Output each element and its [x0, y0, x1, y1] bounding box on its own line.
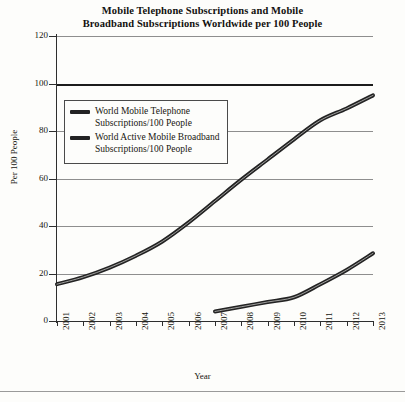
- x-tick-2009: [268, 321, 269, 326]
- x-tick-label-2012: 2012: [351, 312, 361, 330]
- legend-label-broadband: World Active Mobile Broadband Subscripti…: [95, 132, 220, 155]
- x-tick-label-2001: 2001: [61, 312, 71, 330]
- gridline-60: [57, 179, 373, 180]
- x-tick-label-2006: 2006: [193, 312, 203, 330]
- chart-container: Mobile Telephone Subscriptions and Mobil…: [0, 0, 405, 402]
- x-tick-label-2007: 2007: [219, 312, 229, 330]
- y-tick-80: [49, 131, 57, 132]
- x-tick-2002: [83, 321, 84, 326]
- y-tick-40: [49, 226, 57, 227]
- legend-label-telephone: World Mobile Telephone Subscriptions/100…: [95, 106, 192, 129]
- legend-label-telephone-line-1: World Mobile Telephone: [95, 106, 190, 116]
- x-tick-2003: [110, 321, 111, 326]
- gridline-120: [57, 36, 373, 37]
- x-tick-2010: [294, 321, 295, 326]
- plot-area: [57, 36, 373, 321]
- y-tick-60: [49, 179, 57, 180]
- x-tick-label-2003: 2003: [114, 312, 124, 330]
- footer-divider: [0, 391, 405, 392]
- x-tick-label-2011: 2011: [324, 312, 334, 330]
- gridline-100: [57, 84, 373, 86]
- legend-label-telephone-line-2: Subscriptions/100 People: [95, 118, 192, 128]
- chart-title: Mobile Telephone Subscriptions and Mobil…: [0, 4, 405, 30]
- legend-swatch-icon: [70, 136, 90, 140]
- y-axis-labels: 020406080100120: [0, 0, 48, 402]
- x-tick-2007: [215, 321, 216, 326]
- x-tick-label-2009: 2009: [272, 312, 282, 330]
- x-tick-2011: [320, 321, 321, 326]
- y-axis-title: Per 100 People: [9, 97, 19, 217]
- legend-label-broadband-line-2: Subscriptions/100 People: [95, 144, 192, 154]
- legend-item-telephone: World Mobile Telephone Subscriptions/100…: [70, 106, 220, 129]
- y-tick-label-20: 20: [2, 268, 48, 278]
- y-tick-120: [49, 36, 57, 37]
- y-tick-label-120: 120: [2, 30, 48, 40]
- y-tick-label-40: 40: [2, 220, 48, 230]
- x-tick-label-2005: 2005: [166, 312, 176, 330]
- x-tick-label-2004: 2004: [140, 312, 150, 330]
- x-tick-label-2013: 2013: [377, 312, 387, 330]
- x-tick-label-2008: 2008: [245, 312, 255, 330]
- y-tick-0: [49, 321, 57, 322]
- x-axis-title: Year: [0, 371, 405, 381]
- x-tick-2005: [162, 321, 163, 326]
- legend-label-broadband-line-1: World Active Mobile Broadband: [95, 132, 220, 142]
- x-tick-2012: [347, 321, 348, 326]
- chart-legend: World Mobile Telephone Subscriptions/100…: [64, 100, 228, 164]
- y-tick-label-100: 100: [2, 78, 48, 88]
- x-tick-label-2002: 2002: [87, 312, 97, 330]
- x-tick-2004: [136, 321, 137, 326]
- x-tick-2013: [373, 321, 374, 326]
- x-tick-2006: [189, 321, 190, 326]
- y-tick-label-0: 0: [2, 315, 48, 325]
- chart-title-line-1: Mobile Telephone Subscriptions and Mobil…: [0, 4, 405, 17]
- y-tick-20: [49, 274, 57, 275]
- legend-item-broadband: World Active Mobile Broadband Subscripti…: [70, 132, 220, 155]
- gridline-40: [57, 226, 373, 227]
- gridline-20: [57, 274, 373, 275]
- x-tick-2001: [57, 321, 58, 326]
- chart-title-line-2: Broadband Subscriptions Worldwide per 10…: [0, 17, 405, 30]
- x-tick-2008: [241, 321, 242, 326]
- legend-swatch-icon: [70, 110, 90, 114]
- x-tick-label-2010: 2010: [298, 312, 308, 330]
- y-tick-100: [49, 84, 57, 85]
